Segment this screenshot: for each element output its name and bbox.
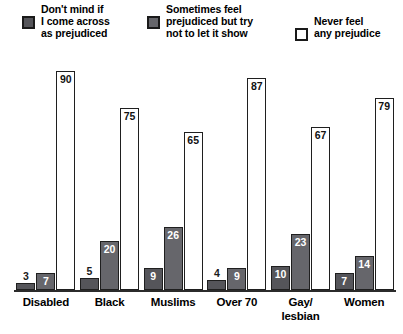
bar[interactable]: 9 [144, 268, 163, 290]
bar[interactable]: 7 [36, 273, 55, 290]
legend-swatch-never-feel [295, 28, 308, 41]
legend-label-dont-mind: Don't mind if I come across as prejudice… [41, 4, 110, 39]
bar-value-label: 79 [378, 99, 390, 112]
bar-slot: 75 [120, 59, 139, 290]
bar-value-label: 14 [358, 257, 370, 270]
bar-value-label: 3 [23, 270, 29, 282]
bar-slot: 67 [311, 59, 330, 290]
bar-value-label: 9 [234, 269, 240, 282]
category-label: Over 70 [205, 296, 269, 323]
bar-slot: 65 [184, 59, 203, 290]
bar-value-label: 7 [341, 274, 347, 287]
category-label: Gay/ lesbian [269, 296, 333, 323]
category-label: Black [78, 296, 142, 323]
bar[interactable]: 7 [335, 273, 354, 290]
category-label: Women [332, 296, 396, 323]
category-label: Muslims [141, 296, 205, 323]
bar[interactable]: 79 [375, 98, 394, 290]
bar-value-label: 20 [104, 242, 116, 255]
bar[interactable] [207, 280, 226, 290]
bar-slot: 23 [291, 59, 310, 290]
bar[interactable]: 20 [100, 241, 119, 290]
category-label: Disabled [14, 296, 78, 323]
bar[interactable]: 67 [311, 127, 330, 290]
bar[interactable]: 90 [56, 71, 75, 290]
bar-slot: 90 [56, 59, 75, 290]
bar[interactable] [16, 283, 35, 290]
bar-value-label: 87 [251, 79, 263, 92]
bar-slot: 5 [80, 59, 99, 290]
bar-slot: 87 [247, 59, 266, 290]
bar-group: 102367 [269, 59, 333, 290]
bar-slot: 7 [36, 59, 55, 290]
chart-legend: Don't mind if I come across as prejudice… [0, 4, 403, 52]
bar-group: 71479 [332, 59, 396, 290]
bar-value-label: 90 [60, 72, 72, 85]
bar-value-label: 26 [167, 228, 179, 241]
bar-slot: 4 [207, 59, 226, 290]
bar-value-label: 67 [315, 128, 327, 141]
bar-value-label: 65 [187, 133, 199, 146]
bar[interactable]: 75 [120, 108, 139, 290]
bar[interactable]: 23 [291, 234, 310, 290]
bar-slot: 7 [335, 59, 354, 290]
x-axis-baseline [14, 290, 396, 292]
x-axis-category-labels: DisabledBlackMuslimsOver 70Gay/ lesbianW… [14, 296, 396, 323]
bar-group: 4987 [205, 59, 269, 290]
bar-value-label: 10 [275, 267, 287, 280]
bar-value-label: 7 [43, 274, 49, 287]
bar-slot: 10 [271, 59, 290, 290]
legend-swatch-dont-mind [22, 16, 35, 29]
bar[interactable]: 87 [247, 78, 266, 290]
bar-group: 52075 [78, 59, 142, 290]
bar-slot: 26 [164, 59, 183, 290]
bar[interactable]: 14 [355, 256, 374, 290]
bar-value-label: 5 [87, 265, 93, 277]
bar-value-label: 9 [150, 269, 156, 282]
bar-slot: 20 [100, 59, 119, 290]
bar-slot: 14 [355, 59, 374, 290]
legend-entry-never-feel: Never feel any prejudice [295, 16, 380, 41]
bar[interactable]: 10 [271, 266, 290, 290]
chart-plot-area: 37905207592665498710236771479 [0, 52, 403, 292]
legend-entry-dont-mind: Don't mind if I come across as prejudice… [22, 4, 110, 39]
bar-value-label: 23 [295, 235, 307, 248]
bar-slot: 9 [227, 59, 246, 290]
bar[interactable] [80, 278, 99, 290]
bar-value-label: 75 [124, 109, 136, 122]
bar-value-label: 4 [214, 267, 220, 279]
bar[interactable]: 65 [184, 132, 203, 290]
bar-slot: 79 [375, 59, 394, 290]
bar-slot: 9 [144, 59, 163, 290]
bar-groups: 37905207592665498710236771479 [14, 59, 396, 290]
bar-group: 3790 [14, 59, 78, 290]
bar-slot: 3 [16, 59, 35, 290]
bar[interactable]: 9 [227, 268, 246, 290]
bar[interactable]: 26 [164, 227, 183, 290]
legend-label-never-feel: Never feel any prejudice [314, 16, 380, 40]
legend-swatch-sometimes-feel [147, 16, 160, 29]
legend-label-sometimes-feel: Sometimes feel prejudiced but try not to… [166, 4, 253, 39]
legend-entry-sometimes-feel: Sometimes feel prejudiced but try not to… [147, 4, 253, 39]
bar-group: 92665 [141, 59, 205, 290]
